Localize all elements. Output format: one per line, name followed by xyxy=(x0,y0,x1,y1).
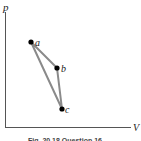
x-axis-label: V xyxy=(133,122,141,133)
figure-caption: Fig. 20.18 Question 16 xyxy=(28,137,102,141)
cycle-path xyxy=(31,42,62,109)
y-axis-label: p xyxy=(2,1,9,13)
point-a xyxy=(28,39,33,44)
point-b xyxy=(54,65,59,70)
label-c: c xyxy=(65,104,70,115)
point-c xyxy=(59,106,64,111)
pv-diagram: p V a b c Fig. 20.18 Question 16 xyxy=(0,0,141,141)
label-b: b xyxy=(61,63,66,74)
label-a: a xyxy=(35,37,40,48)
